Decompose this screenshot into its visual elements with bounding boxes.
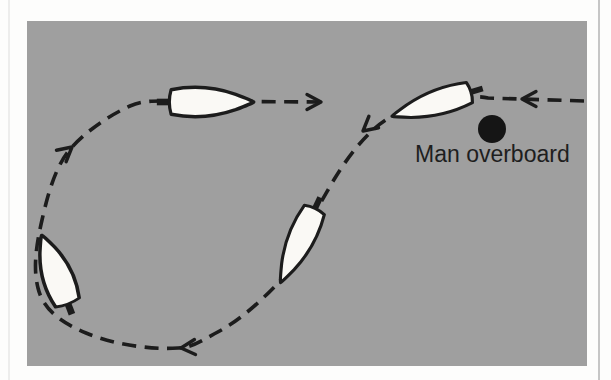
man-overboard-maneuver-diagram: Man overboard [0,0,611,380]
water-panel [27,21,587,366]
page-background: Man overboard [0,0,611,380]
man-overboard-marker [478,115,506,143]
man-overboard-label: Man overboard [415,141,570,167]
